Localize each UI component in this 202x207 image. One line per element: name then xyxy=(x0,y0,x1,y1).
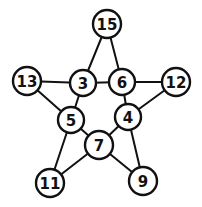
node-7: 7 xyxy=(85,131,113,159)
node-label: 3 xyxy=(78,75,88,93)
node-15: 15 xyxy=(93,10,121,38)
node-3: 3 xyxy=(70,70,96,96)
node-label: 11 xyxy=(40,175,61,193)
node-label: 9 xyxy=(138,173,148,191)
node-13: 13 xyxy=(13,67,41,95)
node-5: 5 xyxy=(58,107,84,133)
node-label: 12 xyxy=(166,74,187,92)
pentagram-diagram: 15133612547119 xyxy=(0,0,202,207)
node-label: 13 xyxy=(17,73,38,91)
node-layer: 15133612547119 xyxy=(13,10,190,197)
node-label: 6 xyxy=(117,74,127,92)
node-label: 15 xyxy=(97,16,118,34)
node-12: 12 xyxy=(162,68,190,96)
node-11: 11 xyxy=(36,169,64,197)
node-6: 6 xyxy=(109,69,135,95)
node-label: 7 xyxy=(94,137,104,155)
node-label: 4 xyxy=(123,109,133,127)
node-9: 9 xyxy=(129,167,157,195)
node-4: 4 xyxy=(115,104,141,130)
node-label: 5 xyxy=(66,112,76,130)
